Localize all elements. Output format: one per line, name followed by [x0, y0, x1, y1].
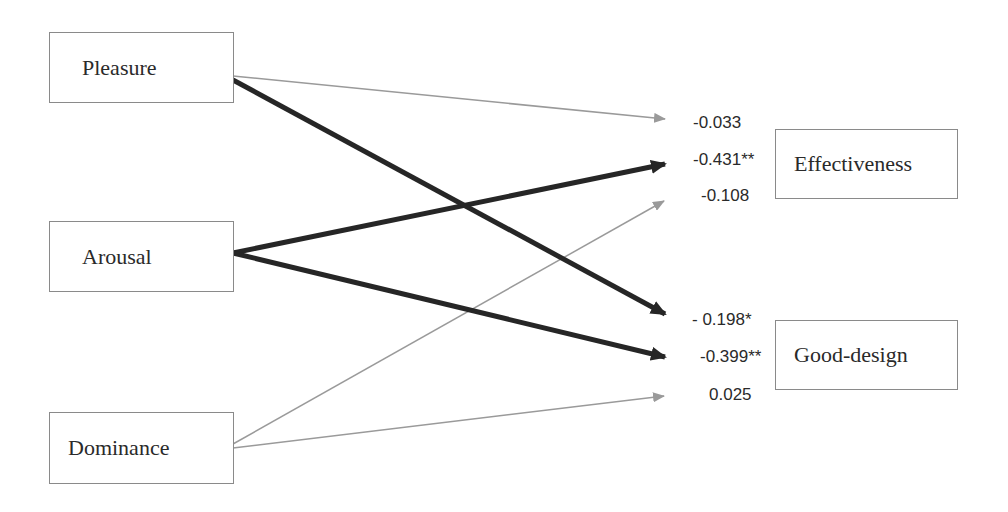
coef-arousal-effectiveness: -0.431**: [693, 150, 754, 170]
node-effectiveness: Effectiveness: [775, 129, 958, 199]
coef-arousal-good-design: -0.399**: [700, 347, 761, 367]
node-good-design: Good-design: [775, 320, 958, 390]
node-dominance: Dominance: [49, 412, 234, 484]
coef-pleasure-good-design: - 0.198*: [692, 310, 752, 330]
coef-pleasure-effectiveness: -0.033: [693, 113, 741, 133]
coef-dominance-good-design: 0.025: [709, 385, 752, 405]
arrow-dominance-good-design: [233, 396, 664, 448]
node-pleasure: Pleasure: [49, 32, 234, 103]
node-arousal: Arousal: [49, 221, 234, 292]
node-label: Dominance: [68, 435, 169, 461]
node-label: Good-design: [794, 342, 908, 368]
arrow-pleasure-good-design: [233, 80, 665, 314]
node-label: Effectiveness: [794, 151, 912, 177]
arrow-arousal-effectiveness: [233, 164, 665, 253]
node-label: Pleasure: [82, 55, 157, 81]
arrow-arousal-good-design: [233, 253, 665, 357]
coef-dominance-effectiveness: -0.108: [701, 186, 749, 206]
node-label: Arousal: [82, 244, 152, 270]
